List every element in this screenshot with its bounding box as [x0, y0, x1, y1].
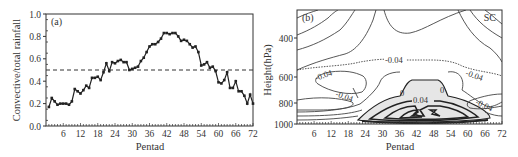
y-tick-label: 1.0	[29, 10, 41, 20]
data-point-marker	[174, 32, 177, 35]
data-point-marker	[59, 102, 62, 105]
data-point-marker	[232, 87, 235, 90]
data-point-marker	[148, 45, 151, 48]
panel-b-y-axis-title: Height(hPa)	[262, 44, 274, 96]
y-tick-label: 0.0	[29, 122, 41, 132]
x-tick-label: 12	[326, 129, 336, 139]
data-point-marker	[128, 69, 131, 72]
data-point-marker	[82, 89, 85, 92]
panel-a-y-axis-title: Convective/total rainfall	[11, 19, 22, 121]
data-point-marker	[140, 60, 143, 63]
contour-field	[297, 10, 502, 123]
contour-label-pos: 0.04	[413, 95, 429, 105]
x-tick-label: 42	[162, 129, 172, 139]
contour-label-neg-left-upper: -0.04	[313, 67, 334, 83]
x-tick-label: 54	[446, 129, 456, 139]
panel-b-contour-chart: 4006008001000 61218243036424854606672 -0…	[262, 10, 507, 152]
data-point-marker	[240, 90, 243, 93]
data-point-marker	[111, 61, 114, 64]
data-point-marker	[246, 102, 249, 105]
data-point-marker	[249, 93, 252, 96]
data-point-marker	[134, 66, 137, 69]
contour-label-neg-mid: -0.04	[385, 55, 403, 65]
data-point-marker	[197, 51, 200, 54]
x-tick-label: 6	[61, 129, 66, 139]
data-point-marker	[194, 45, 197, 48]
data-point-marker	[142, 56, 145, 59]
data-point-marker	[234, 80, 237, 83]
data-point-marker	[214, 70, 217, 73]
panel-a-line-chart: 0.00.20.40.60.81.0 612182430364248546066…	[11, 10, 258, 153]
x-tick-label: 72	[497, 129, 507, 139]
data-point-marker	[171, 32, 174, 35]
x-tick-label: 60	[463, 129, 473, 139]
data-point-marker	[94, 77, 97, 80]
data-point-marker	[105, 62, 108, 65]
data-point-marker	[186, 40, 189, 43]
data-point-marker	[160, 37, 163, 40]
x-tick-label: 30	[378, 129, 388, 139]
data-point-marker	[48, 106, 51, 109]
y-tick-label: 0.4	[29, 77, 41, 87]
data-point-marker	[102, 71, 105, 74]
x-tick-label: 42	[412, 129, 422, 139]
data-point-marker	[191, 46, 194, 49]
data-point-marker	[226, 71, 229, 74]
data-point-marker	[243, 94, 246, 97]
contour-label-neg-right-upper: -0.04	[464, 67, 485, 83]
data-point-marker	[229, 87, 232, 90]
x-tick-label: 48	[429, 129, 439, 139]
x-tick-label: 60	[214, 129, 224, 139]
panel-b-x-axis-title: Pentad	[386, 141, 415, 152]
data-point-marker	[62, 102, 65, 105]
data-point-marker	[108, 70, 111, 73]
x-tick-label: 48	[179, 129, 189, 139]
x-tick-label: 18	[93, 129, 103, 139]
x-tick-label: 24	[361, 129, 371, 139]
y-tick-label: 1000	[274, 120, 293, 130]
data-point-marker	[211, 65, 214, 68]
data-point-marker	[131, 68, 134, 71]
data-point-marker	[73, 88, 76, 91]
x-tick-label: 72	[248, 129, 258, 139]
x-tick-label: 36	[395, 129, 405, 139]
data-point-marker	[154, 43, 157, 46]
panel-b-label: (b)	[302, 12, 314, 24]
data-point-marker	[223, 79, 226, 82]
data-point-marker	[168, 33, 171, 36]
data-point-marker	[79, 92, 82, 95]
data-point-marker	[145, 51, 148, 54]
y-tick-label: 800	[279, 99, 294, 109]
x-tick-label: 36	[145, 129, 155, 139]
data-point-marker	[91, 77, 94, 80]
panel-a-label: (a)	[51, 16, 62, 28]
y-tick-label: 600	[279, 73, 294, 83]
region-label: SC	[484, 12, 497, 23]
data-point-marker	[50, 97, 53, 100]
data-point-marker	[203, 63, 206, 66]
data-point-marker	[206, 61, 209, 64]
y-tick-label: 0.8	[29, 32, 41, 42]
data-point-marker	[157, 41, 160, 44]
data-point-marker	[53, 100, 56, 103]
contour-neg-upper-5	[384, 10, 466, 33]
y-tick-label: 0.2	[29, 99, 41, 109]
x-tick-label: 66	[231, 129, 241, 139]
data-point-marker	[65, 102, 68, 105]
data-point-marker	[209, 66, 212, 69]
contour-neg-left-surface-2	[297, 116, 358, 120]
contour-label-zero-right: 0	[440, 85, 444, 95]
data-point-marker	[114, 62, 117, 65]
y-tick-label: 400	[279, 34, 294, 44]
data-point-marker	[85, 84, 88, 87]
data-point-marker	[163, 32, 166, 35]
panel-a-x-axis: 61218243036424854606672	[49, 123, 258, 139]
data-point-marker	[96, 75, 99, 78]
data-point-marker	[177, 35, 180, 38]
data-point-marker	[237, 90, 240, 93]
data-point-marker	[200, 64, 203, 67]
x-tick-label: 54	[197, 129, 207, 139]
data-point-marker	[125, 61, 128, 64]
data-point-marker	[71, 100, 74, 103]
x-tick-label: 12	[76, 129, 86, 139]
